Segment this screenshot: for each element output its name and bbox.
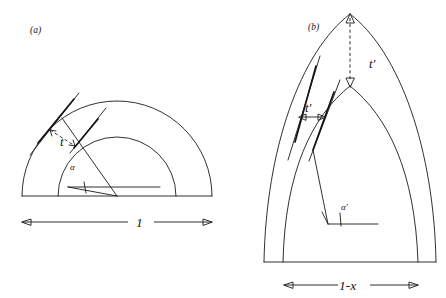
panel-b-label: (b) [308, 22, 319, 33]
span-label-b: 1-x [339, 278, 356, 293]
panel-a-label: (a) [30, 25, 41, 36]
figure-root: (a) t α 1 [0, 0, 446, 298]
angle-label-a: α [70, 162, 75, 172]
angle-label-b: α′ [341, 202, 349, 212]
haunch-thickness-label-b: t′ [305, 100, 312, 115]
arch-diagram-svg: (a) t α 1 [0, 0, 446, 298]
span-label-a: 1 [136, 215, 143, 230]
thickness-label-a: t [60, 134, 64, 149]
crown-thickness-label-b: t′ [369, 56, 376, 71]
